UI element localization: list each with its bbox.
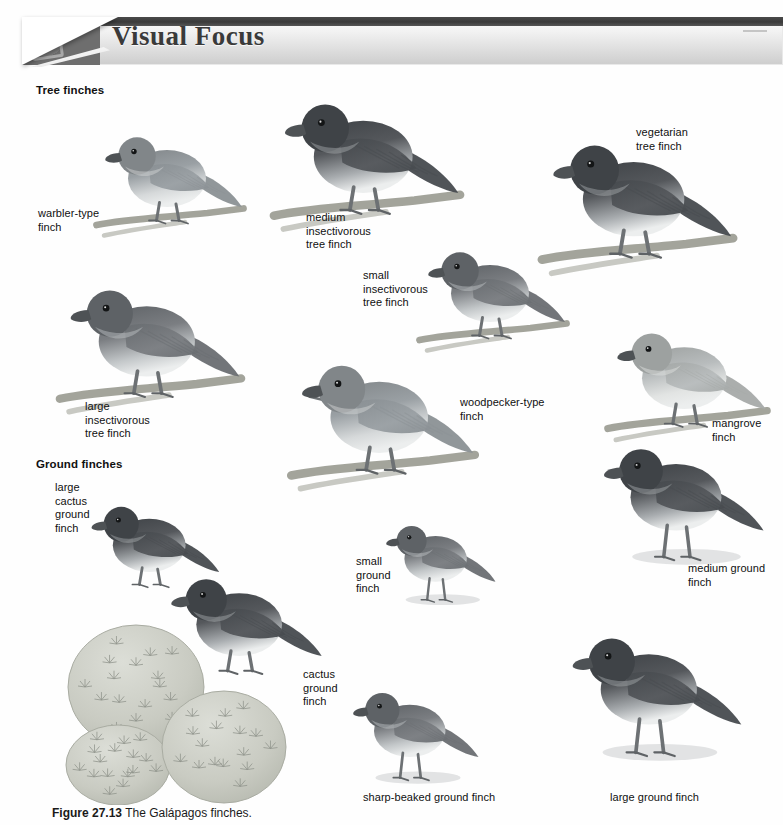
- head: [301, 105, 349, 153]
- label-medium-ground-finch: medium ground finch: [688, 562, 765, 589]
- head: [318, 366, 365, 413]
- beak: [386, 539, 399, 547]
- label-small-insectivorous: small insectivorous tree finch: [363, 269, 428, 310]
- page-title: Visual Focus: [112, 21, 265, 52]
- beak: [92, 522, 108, 531]
- head: [631, 333, 672, 374]
- eye: [407, 535, 411, 539]
- beak: [604, 468, 624, 479]
- beak: [171, 597, 189, 608]
- label-vegetarian-tree-finch: vegetarian tree finch: [636, 126, 688, 153]
- eye: [116, 518, 121, 523]
- eye: [646, 346, 652, 352]
- beak: [553, 166, 575, 179]
- beak: [617, 351, 635, 362]
- head: [441, 252, 479, 290]
- banner-tick-mark: [743, 30, 767, 32]
- eye: [605, 653, 612, 660]
- eye: [454, 264, 459, 269]
- label-woodpecker-type-finch: woodpecker-type finch: [460, 396, 545, 423]
- figure-page: Visual Focus Tree finches Ground finches…: [0, 0, 783, 825]
- beak: [71, 310, 92, 322]
- illustration-large-ground-finch: [560, 605, 745, 785]
- illustration-woodpecker-type-finch: [288, 348, 478, 498]
- head: [397, 526, 427, 556]
- head: [87, 291, 133, 337]
- label-large-ground-finch: large ground finch: [610, 791, 699, 805]
- illustration-prickly-pear-cactus: [58, 615, 303, 805]
- label-warbler-type-finch: warbler-type finch: [38, 207, 99, 234]
- illustration-small-ground-finch: [378, 505, 498, 620]
- label-small-ground-finch: small ground finch: [356, 555, 391, 596]
- eye: [200, 592, 206, 598]
- eye: [335, 380, 342, 387]
- head: [589, 639, 635, 685]
- eye: [103, 305, 110, 312]
- cactus-pad: [66, 725, 170, 805]
- cactus-pad: [162, 691, 286, 803]
- beak: [428, 268, 445, 278]
- head: [104, 507, 139, 542]
- illustration-medium-ground-finch: [592, 420, 767, 585]
- beak: [353, 708, 368, 717]
- label-cactus-ground-finch: cactus ground finch: [303, 668, 338, 709]
- illustration-sharp-beaked-ground-finch: [320, 680, 505, 790]
- illustration-warbler-type-finch: [95, 118, 245, 248]
- group-heading-tree-finches: Tree finches: [36, 84, 104, 96]
- head: [619, 449, 663, 493]
- beak: [285, 125, 306, 137]
- eye: [131, 149, 136, 154]
- label-large-cactus-ground-finch: large cactus ground finch: [55, 481, 90, 535]
- head: [570, 146, 619, 195]
- head: [365, 693, 399, 727]
- label-medium-insectivorous: medium insectivorous tree finch: [306, 211, 371, 252]
- beak: [573, 658, 594, 670]
- label-large-insectivorous: large insectivorous tree finch: [85, 400, 150, 441]
- eye: [318, 119, 325, 126]
- eye: [377, 704, 382, 709]
- beak: [105, 153, 122, 163]
- figure-caption: Figure 27.13 The Galápagos finches.: [52, 806, 252, 820]
- beak: [302, 386, 323, 398]
- eye: [634, 463, 640, 469]
- label-sharp-beaked-ground-finch: sharp-beaked ground finch: [363, 791, 495, 805]
- figure-number: Figure 27.13: [52, 806, 122, 820]
- head: [118, 137, 156, 175]
- eye: [587, 161, 594, 168]
- label-mangrove-finch: mangrove finch: [712, 417, 761, 444]
- figure-caption-text: The Galápagos finches.: [125, 806, 252, 820]
